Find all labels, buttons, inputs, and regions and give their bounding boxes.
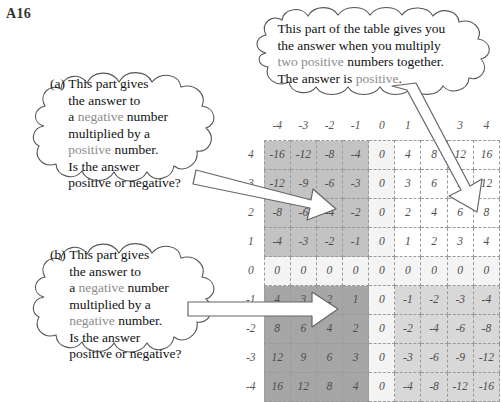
- callout-line: This part gives: [68, 76, 180, 93]
- table-row: -143210-1-2-3-4: [238, 286, 500, 315]
- table-cell: 9: [447, 170, 473, 199]
- table-corner-cell: [238, 112, 264, 141]
- callout-text-run: the answer when you multiply: [277, 38, 440, 53]
- table-cell: -2: [316, 228, 342, 257]
- table-cell: 0: [369, 286, 395, 315]
- table-cell: -8: [473, 315, 499, 344]
- table-row: 2-8-6-4-202468: [238, 199, 500, 228]
- callout-text-run: multiplied by a: [68, 126, 150, 141]
- table-cell: 12: [290, 373, 316, 402]
- table-cell: 4: [473, 228, 499, 257]
- table-cell: -4: [473, 286, 499, 315]
- table-cell: 6: [316, 344, 342, 373]
- callout-a-lines: This part givesthe answer toa negative n…: [68, 76, 180, 192]
- table-cell: 0: [343, 257, 369, 286]
- table-cell: -4: [395, 373, 421, 402]
- table-cell: 16: [473, 141, 499, 170]
- column-header-neg1: -1: [343, 112, 369, 141]
- callout-text-run: This part gives: [69, 247, 149, 262]
- table-cell: 0: [369, 170, 395, 199]
- table-cell: -1: [395, 286, 421, 315]
- callout-text-run: positive or negative?: [68, 175, 180, 190]
- callout-line: a negative number: [68, 109, 180, 126]
- table-cell: 9: [290, 344, 316, 373]
- table-cell: 8: [421, 141, 447, 170]
- callout-a-marker: (a): [50, 76, 65, 93]
- table-row: -41612840-4-8-12-16: [238, 373, 500, 402]
- callout-text-run: .: [398, 71, 401, 86]
- callout-b-marker: (b): [50, 247, 66, 264]
- table-cell: -2: [395, 315, 421, 344]
- row-header-neg2: -2: [238, 315, 264, 344]
- column-header-neg4: -4: [264, 112, 290, 141]
- table-cell: 3: [395, 170, 421, 199]
- multiplication-table-container: -4-3-2-1012344-16-12-8-404812163-12-9-6-…: [238, 112, 500, 396]
- callout-text-run: numbers together.: [344, 54, 444, 69]
- table-header-row: -4-3-2-101234: [238, 112, 500, 141]
- table-cell: 6: [290, 315, 316, 344]
- table-cell: 6: [421, 170, 447, 199]
- highlighted-term: negative: [69, 313, 115, 328]
- row-header-neg1: -1: [238, 286, 264, 315]
- table-cell: 0: [369, 141, 395, 170]
- callout-line: the answer when you multiply: [277, 38, 445, 55]
- callout-text-run: a: [68, 109, 77, 124]
- highlighted-term: negative: [78, 109, 124, 124]
- table-cell: -8: [421, 373, 447, 402]
- highlighted-term: negative: [79, 280, 125, 295]
- table-cell: -12: [264, 170, 290, 199]
- column-header-neg2: -2: [316, 112, 342, 141]
- table-cell: 3: [447, 228, 473, 257]
- callout-top-lines: This part of the table gives youthe answ…: [277, 21, 445, 87]
- table-cell: -3: [447, 286, 473, 315]
- table-cell: -8: [316, 141, 342, 170]
- column-header-4: 4: [473, 112, 499, 141]
- table-cell: -9: [447, 344, 473, 373]
- callout-line: two positive numbers together.: [277, 54, 445, 71]
- table-row: 0000000000: [238, 257, 500, 286]
- callout-text-run: the answer to: [69, 264, 141, 279]
- callout-line: positive or negative?: [69, 346, 181, 363]
- table-cell: 4: [395, 141, 421, 170]
- table-cell: -16: [264, 141, 290, 170]
- table-cell: 8: [264, 315, 290, 344]
- table-cell: 4: [264, 286, 290, 315]
- callout-text-run: Is the answer: [69, 330, 140, 345]
- table-cell: 12: [473, 170, 499, 199]
- callout-positive-times-positive: This part of the table gives youthe answ…: [252, 4, 502, 102]
- table-cell: -6: [316, 170, 342, 199]
- callout-text-run: This part of the table gives you: [277, 21, 445, 36]
- row-header-neg3: -3: [238, 344, 264, 373]
- callout-text-run: the answer to: [68, 93, 140, 108]
- table-cell: 4: [343, 373, 369, 402]
- callout-line: negative number.: [69, 313, 181, 330]
- highlighted-term: two positive: [277, 54, 343, 69]
- table-cell: 3: [290, 286, 316, 315]
- callout-b-lines: This part givesthe answer toa negative n…: [69, 247, 181, 363]
- callout-negative-times-negative: (b) This part givesthe answer toa negati…: [32, 228, 238, 370]
- row-header-neg4: -4: [238, 373, 264, 402]
- callout-b-text: (b) This part givesthe answer toa negati…: [50, 247, 226, 363]
- table-cell: 0: [369, 257, 395, 286]
- table-cell: -4: [421, 315, 447, 344]
- table-cell: 4: [316, 315, 342, 344]
- callout-negative-times-positive: (a) This part givesthe answer toa negati…: [32, 58, 238, 198]
- callout-text-run: multiplied by a: [69, 297, 151, 312]
- table-cell: -9: [290, 170, 316, 199]
- table-row: -3129630-3-6-9-12: [238, 344, 500, 373]
- table-cell: 2: [395, 199, 421, 228]
- column-header-3: 3: [447, 112, 473, 141]
- table-row: 4-16-12-8-40481216: [238, 141, 500, 170]
- row-header-4: 4: [238, 141, 264, 170]
- callout-text-run: positive or negative?: [69, 346, 181, 361]
- table-cell: 2: [421, 228, 447, 257]
- table-cell: 0: [369, 344, 395, 373]
- callout-top-text: This part of the table gives youthe answ…: [274, 21, 488, 87]
- table-cell: -2: [343, 199, 369, 228]
- table-cell: -3: [395, 344, 421, 373]
- table-cell: 0: [369, 315, 395, 344]
- callout-line: The answer is positive.: [277, 71, 445, 88]
- column-header-0: 0: [369, 112, 395, 141]
- table-cell: 8: [473, 199, 499, 228]
